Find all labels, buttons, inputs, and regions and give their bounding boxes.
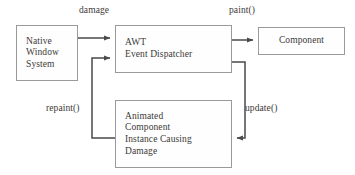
edge-repaint-line — [92, 58, 115, 138]
edge-update-line — [232, 62, 245, 138]
node-native-window-system[interactable]: Native Window System — [16, 25, 78, 81]
node-line: Animated — [125, 111, 231, 123]
edge-label-damage: damage — [79, 5, 109, 16]
edge-label-update: update() — [245, 103, 277, 114]
edge-label-paint: paint() — [229, 5, 255, 16]
node-line: System — [26, 59, 77, 71]
diagram-canvas: Native Window System AWT Event Dispatche… — [0, 0, 355, 175]
node-line: AWT — [125, 37, 231, 49]
node-line: Component — [279, 35, 324, 47]
node-line: Native — [26, 36, 77, 48]
node-component[interactable]: Component — [258, 27, 345, 55]
edge-label-repaint: repaint() — [46, 103, 80, 114]
node-line: Damage — [125, 146, 231, 158]
node-line: Component — [125, 122, 231, 134]
node-line: Instance Causing — [125, 134, 231, 146]
node-line: Event Dispatcher — [125, 49, 231, 61]
node-animated-component[interactable]: Animated Component Instance Causing Dama… — [115, 100, 232, 168]
node-line: Window — [26, 47, 77, 59]
node-awt-event-dispatcher[interactable]: AWT Event Dispatcher — [115, 25, 232, 73]
